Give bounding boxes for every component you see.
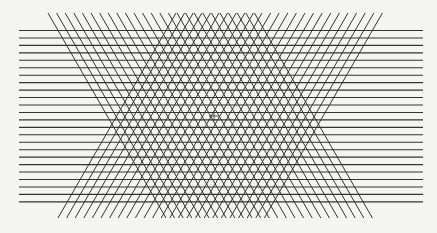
figure-canvas [0,0,437,233]
horizontal-lines [19,31,423,202]
line-lattice-diagram [0,0,437,233]
